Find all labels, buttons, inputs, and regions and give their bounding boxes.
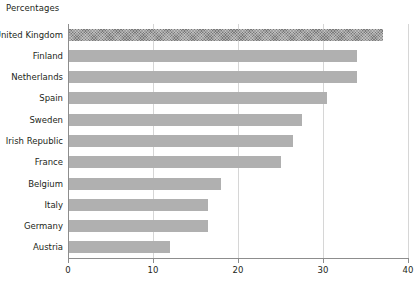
category-label: France bbox=[35, 157, 63, 167]
category-label: Irish Republic bbox=[6, 136, 63, 146]
bar bbox=[68, 220, 208, 232]
bar bbox=[68, 156, 281, 168]
category-label: Austria bbox=[33, 242, 63, 252]
bar bbox=[68, 29, 383, 41]
category-label: Netherlands bbox=[11, 72, 63, 82]
y-axis-category-labels: United KingdomFinlandNetherlandsSpainSwe… bbox=[0, 0, 63, 287]
bar bbox=[68, 50, 357, 62]
bar bbox=[68, 199, 208, 211]
x-axis-tick bbox=[408, 259, 409, 263]
x-axis-tick-label: 10 bbox=[148, 265, 159, 275]
bar bbox=[68, 178, 221, 190]
category-label: Germany bbox=[24, 221, 63, 231]
category-label: United Kingdom bbox=[0, 30, 63, 40]
x-axis-tick bbox=[323, 259, 324, 263]
x-axis-tick bbox=[238, 259, 239, 263]
percentages-bar-chart: Percentages 010203040 United KingdomFinl… bbox=[0, 0, 417, 287]
bar bbox=[68, 114, 302, 126]
x-axis-tick-label: 40 bbox=[403, 265, 414, 275]
bar bbox=[68, 135, 293, 147]
gridline bbox=[408, 24, 409, 258]
bar bbox=[68, 241, 170, 253]
x-axis-tick-label: 30 bbox=[318, 265, 329, 275]
bar bbox=[68, 71, 357, 83]
category-label: Spain bbox=[39, 93, 63, 103]
plot-area bbox=[68, 24, 408, 258]
x-axis-tick bbox=[68, 259, 69, 263]
bar bbox=[68, 92, 327, 104]
x-axis-tick-label: 20 bbox=[233, 265, 244, 275]
category-label: Finland bbox=[33, 51, 63, 61]
category-label: Sweden bbox=[29, 115, 63, 125]
x-axis-tick bbox=[153, 259, 154, 263]
x-axis-tick-label: 0 bbox=[65, 265, 70, 275]
category-label: Belgium bbox=[28, 179, 63, 189]
y-axis-line bbox=[68, 24, 69, 259]
category-label: Italy bbox=[45, 200, 63, 210]
